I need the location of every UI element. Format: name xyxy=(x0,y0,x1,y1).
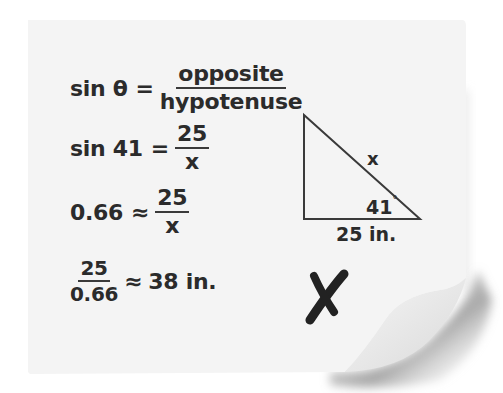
note-paper-scene: sin θ = opposite hypotenuse sin 41 = 25 … xyxy=(0,0,503,393)
base-label: 25 in. xyxy=(336,223,396,245)
angle-value: 41 xyxy=(366,196,392,218)
degree-symbol: ° xyxy=(392,194,397,205)
hypotenuse-label: x xyxy=(367,148,379,169)
right-triangle-diagram xyxy=(0,0,503,393)
angle-label: 41° xyxy=(366,196,397,218)
wrong-x-mark-icon xyxy=(300,268,352,328)
